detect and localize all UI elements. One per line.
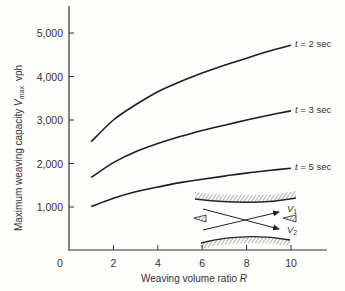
y-tick-label: 2,000: [37, 158, 63, 170]
series-line-1: [91, 111, 291, 177]
y-tick-label: 4,000: [37, 71, 63, 83]
series-label-2: t = 5 sec: [295, 161, 331, 172]
x-tick-label: 4: [155, 257, 161, 269]
y-tick-label: 3,000: [37, 114, 63, 126]
left-gore-icon: [194, 215, 206, 222]
x-axis-title: Weaving volume ratio R: [141, 273, 247, 284]
weaving-section-inset: V1 V2: [194, 191, 297, 249]
v2-label: V2: [287, 224, 297, 236]
series-labels: t = 2 sect = 3 sect = 5 sec: [295, 38, 331, 172]
flow-arrow-v1: [203, 212, 279, 230]
lower-hatch: [201, 237, 290, 249]
series-line-0: [91, 45, 291, 142]
y-tick-label: 1,000: [37, 201, 63, 213]
series-label-0: t = 2 sec: [295, 38, 331, 49]
origin-label: 0: [57, 257, 63, 269]
series-label-1: t = 3 sec: [295, 104, 331, 115]
x-tick-label: 10: [285, 257, 297, 269]
right-gore-icon: [283, 215, 296, 222]
flow-arrow-v2: [203, 209, 279, 229]
v1-label: V1: [287, 203, 297, 215]
x-tick-label: 6: [199, 257, 205, 269]
chart: 1,0002,0003,0004,0005,000 246810 0 Weavi…: [0, 0, 345, 291]
y-tick-label: 5,000: [37, 27, 63, 39]
y-axis-title: Maximum weaving capacity Vmaxvph: [13, 65, 25, 231]
x-tick-label: 8: [244, 257, 250, 269]
x-ticks: 246810: [110, 245, 297, 269]
x-tick-label: 2: [110, 257, 116, 269]
series-lines: [91, 45, 291, 206]
